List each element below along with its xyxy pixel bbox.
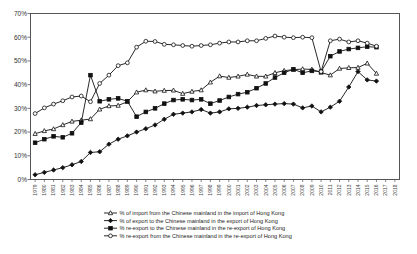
data-point-marker (337, 66, 341, 70)
data-point-marker (109, 226, 113, 230)
data-point-marker (107, 98, 111, 102)
data-point-marker (116, 137, 120, 141)
x-tick-label: 1990 (133, 184, 139, 195)
data-point-marker (190, 98, 194, 102)
data-point-marker (61, 135, 65, 139)
data-point-marker (319, 70, 323, 74)
x-tick-label: 1988 (115, 184, 121, 195)
data-point-marker (273, 70, 277, 74)
data-point-marker (171, 112, 175, 116)
x-tick-label: 1984 (78, 184, 84, 195)
legend-item[interactable]: % re-export to the Chinese mainland in t… (104, 225, 285, 231)
data-point-marker (153, 123, 157, 127)
data-point-marker (273, 34, 277, 38)
data-point-marker (301, 71, 305, 75)
data-point-marker (338, 50, 342, 54)
legend-item[interactable]: % re-export from the Chinese mainland in… (104, 233, 292, 239)
data-point-marker (70, 131, 74, 135)
x-tick-label: 1993 (161, 184, 167, 195)
data-point-marker (227, 95, 231, 99)
data-point-marker (365, 61, 369, 65)
data-point-marker (181, 91, 185, 95)
data-point-marker (61, 99, 65, 103)
data-point-marker (273, 76, 277, 80)
data-point-marker (190, 89, 194, 93)
data-point-marker (61, 165, 65, 169)
x-tick-label: 1980 (41, 184, 47, 195)
x-tick-label: 2012 (336, 184, 342, 195)
legend-item[interactable]: % of import from the Chinese mainland in… (104, 210, 284, 216)
x-tick-label: 2015 (364, 184, 370, 195)
x-tick-label: 2016 (373, 184, 379, 195)
data-point-marker (108, 218, 112, 222)
data-point-marker (51, 168, 55, 172)
data-point-marker (199, 107, 203, 111)
data-point-marker (282, 71, 286, 75)
data-point-marker (162, 42, 166, 46)
legend-label: % re-export from the Chinese mainland in… (120, 233, 292, 239)
x-axis-labels: 1979198019811982198319841985198619871988… (32, 180, 398, 196)
y-tick-label: 30% (14, 105, 27, 112)
data-point-marker (79, 94, 83, 98)
data-point-marker (236, 74, 240, 78)
x-tick-label: 1983 (69, 184, 75, 195)
data-point-marker (347, 40, 351, 44)
data-point-marker (43, 137, 47, 141)
legend-item[interactable]: % of export to the Chinese mainland in t… (104, 218, 278, 224)
data-point-marker (162, 102, 166, 106)
x-tick-label: 1979 (32, 184, 38, 195)
x-tick-label: 1996 (189, 184, 195, 195)
data-point-marker (273, 102, 277, 106)
data-point-marker (125, 134, 129, 138)
data-point-marker (144, 127, 148, 131)
x-tick-label: 1981 (50, 184, 56, 195)
data-point-marker (365, 41, 369, 45)
data-point-marker (172, 43, 176, 47)
data-point-marker (134, 130, 138, 134)
data-point-marker (218, 99, 222, 103)
data-point-marker (181, 44, 185, 48)
data-point-marker (236, 40, 240, 44)
data-point-marker (254, 74, 258, 78)
data-point-marker (144, 88, 148, 92)
series-filled-square (33, 45, 378, 145)
data-point-marker (116, 103, 120, 107)
data-point-marker (33, 141, 37, 145)
x-tick-label: 1997 (198, 184, 204, 195)
data-point-marker (245, 39, 249, 43)
data-point-marker (61, 123, 65, 127)
y-tick-label: 20% (14, 128, 27, 135)
data-point-marker (42, 129, 46, 133)
data-point-marker (301, 35, 305, 39)
y-tick-label: 40% (14, 81, 27, 88)
data-point-marker (374, 79, 378, 83)
data-point-marker (319, 110, 323, 114)
data-point-marker (227, 75, 231, 79)
x-tick-label: 1982 (60, 184, 66, 195)
data-point-marker (135, 45, 139, 49)
y-tick-label: 70% (14, 10, 27, 17)
data-point-marker (52, 102, 56, 106)
x-tick-label: 2004 (263, 184, 269, 195)
data-point-marker (218, 74, 222, 78)
data-point-marker (337, 99, 341, 103)
data-point-marker (135, 115, 139, 119)
data-point-marker (190, 110, 194, 114)
data-point-marker (356, 46, 360, 50)
data-point-marker (310, 36, 314, 40)
x-tick-label: 1989 (124, 184, 130, 195)
data-point-marker (172, 98, 176, 102)
data-point-marker (190, 44, 194, 48)
x-tick-label: 2005 (272, 184, 278, 195)
data-point-marker (33, 131, 37, 135)
data-point-marker (98, 99, 102, 103)
data-point-marker (134, 90, 138, 94)
x-tick-label: 2007 (290, 184, 296, 195)
x-tick-label: 1986 (96, 184, 102, 195)
x-tick-label: 1991 (143, 184, 149, 195)
legend: % of import from the Chinese mainland in… (104, 210, 292, 239)
data-point-marker (264, 103, 268, 107)
x-tick-label: 2009 (309, 184, 315, 195)
series-filled-diamond (33, 69, 379, 177)
data-point-marker (89, 100, 93, 104)
